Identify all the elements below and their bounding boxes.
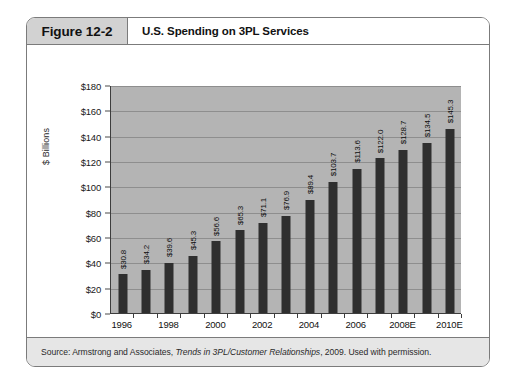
bar-value-label: $71.1 [259, 198, 268, 217]
y-axis-tick-label: $160 [81, 106, 101, 117]
x-axis-tick-mark [133, 314, 134, 318]
y-axis-tick-label: $0 [91, 309, 101, 320]
bar[interactable] [142, 270, 151, 313]
y-axis-tick-mark [105, 162, 110, 163]
bar[interactable] [235, 230, 244, 313]
bar-slot: $134.5 [415, 86, 438, 313]
bar[interactable] [446, 129, 455, 313]
figure-number-box: Figure 12-2 [27, 18, 128, 44]
x-axis-tick-mark [274, 314, 275, 318]
x-axis-tick-label: 2000 [205, 319, 225, 330]
y-axis-tick-mark [105, 111, 110, 112]
bar-slot: $89.4 [298, 86, 321, 313]
x-axis-tick-mark [321, 314, 322, 318]
bar[interactable] [399, 150, 408, 313]
bar-slot: $45.3 [181, 86, 204, 313]
bar-value-label: $30.8 [118, 249, 127, 268]
y-axis-tick-mark [105, 212, 110, 213]
bar-value-label: $128.7 [399, 121, 408, 144]
figure-title-box: U.S. Spending on 3PL Services [128, 18, 489, 44]
chart-body: $ Billions $0$20$40$60$80$100$120$140$16… [27, 45, 489, 337]
bar-slot: $65.3 [228, 86, 251, 313]
x-axis-tick-mark [461, 314, 462, 318]
figure-frame: Figure 12-2 U.S. Spending on 3PL Service… [26, 17, 490, 367]
y-axis-tick-label: $100 [81, 182, 101, 193]
x-axis-tick-mark [414, 314, 415, 318]
x-axis-tick-label: 1998 [158, 319, 178, 330]
bar-value-label: $122.0 [376, 130, 385, 153]
x-axis-tick-mark [344, 314, 345, 318]
x-axis-tick-label: 2006 [346, 319, 366, 330]
x-axis-tick-mark [157, 314, 158, 318]
bar-slot: $113.6 [345, 86, 368, 313]
bar[interactable] [118, 274, 127, 313]
bar[interactable] [329, 182, 338, 313]
bar-value-label: $76.9 [282, 191, 291, 210]
x-axis-tick-mark [367, 314, 368, 318]
bar-slot: $30.8 [111, 86, 134, 313]
bar-value-label: $89.4 [305, 175, 314, 194]
bar[interactable] [352, 169, 361, 313]
y-axis-tick-mark [105, 263, 110, 264]
y-axis-tick-mark [105, 187, 110, 188]
bar-slot: $76.9 [275, 86, 298, 313]
bar-value-label: $65.3 [235, 206, 244, 225]
plot-area: $30.8$34.2$39.6$45.3$56.6$65.3$71.1$76.9… [110, 86, 461, 314]
x-axis-tick-mark [250, 314, 251, 318]
x-axis-tick-labels: 1996199820002002200420062008E2010E [110, 319, 461, 335]
y-axis-tick-labels: $0$20$40$60$80$100$120$140$160$180 [57, 86, 101, 314]
bar-slot: $71.1 [251, 86, 274, 313]
y-axis-title: $ Billions [41, 128, 51, 165]
bar-value-label: $113.6 [352, 140, 361, 163]
x-axis-tick-label: 2008E [389, 319, 415, 330]
x-axis-tick-mark [297, 314, 298, 318]
y-axis-tick-mark [105, 288, 110, 289]
bar-value-label: $134.5 [422, 114, 431, 137]
figure-title: U.S. Spending on 3PL Services [142, 25, 309, 37]
bar-slot: $122.0 [368, 86, 391, 313]
y-axis-tick-mark [105, 314, 110, 315]
bar[interactable] [212, 241, 221, 313]
y-axis-tick-mark [105, 238, 110, 239]
bar-value-label: $103.7 [329, 153, 338, 176]
bar[interactable] [422, 143, 431, 313]
source-bar: Source: Armstrong and Associates, Trends… [27, 337, 489, 366]
bar[interactable] [165, 263, 174, 313]
x-axis-tick-mark [391, 314, 392, 318]
source-prefix: Source: Armstrong and Associates, [41, 347, 175, 357]
bar[interactable] [282, 216, 291, 313]
y-axis-tick-label: $40 [86, 258, 101, 269]
bar-slot: $103.7 [322, 86, 345, 313]
bar[interactable] [259, 223, 268, 313]
figure-header: Figure 12-2 U.S. Spending on 3PL Service… [27, 18, 489, 45]
bar-value-label: $45.3 [188, 231, 197, 250]
bar-slot: $39.6 [158, 86, 181, 313]
y-axis-tick-mark [105, 86, 110, 87]
y-axis-tick-label: $80 [86, 207, 101, 218]
bar-slot: $128.7 [392, 86, 415, 313]
y-axis-tick-label: $180 [81, 81, 101, 92]
bar-value-label: $145.3 [446, 100, 455, 123]
y-axis-tick-label: $120 [81, 157, 101, 168]
source-note: Source: Armstrong and Associates, Trends… [41, 347, 431, 357]
y-axis-tick-label: $60 [86, 233, 101, 244]
bar-value-label: $34.2 [142, 245, 151, 264]
bar[interactable] [305, 200, 314, 313]
x-axis-tick-mark [438, 314, 439, 318]
x-axis-tick-label: 1996 [112, 319, 132, 330]
bar[interactable] [376, 158, 385, 313]
bar-value-label: $56.6 [212, 217, 221, 236]
bar-slot: $56.6 [205, 86, 228, 313]
x-axis-tick-label: 2002 [252, 319, 272, 330]
x-axis-tick-mark [180, 314, 181, 318]
source-suffix: , 2009. Used with permission. [320, 347, 431, 357]
bar-slot: $34.2 [134, 86, 157, 313]
x-axis-tick-mark [204, 314, 205, 318]
bar-slot: $145.3 [439, 86, 462, 313]
figure-number-label: Figure 12-2 [42, 24, 113, 39]
bars-layer: $30.8$34.2$39.6$45.3$56.6$65.3$71.1$76.9… [111, 86, 461, 313]
x-axis-tick-mark [227, 314, 228, 318]
bar[interactable] [188, 256, 197, 313]
y-axis-tick-label: $140 [81, 131, 101, 142]
y-axis-tick-mark [105, 136, 110, 137]
